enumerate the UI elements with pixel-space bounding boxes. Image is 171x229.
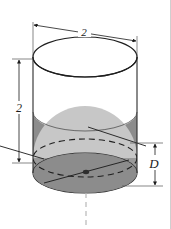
center-dot xyxy=(83,170,89,174)
geometry-figure: 2 2 D xyxy=(0,0,171,229)
dimension-label-top-diameter: 2 xyxy=(81,26,87,38)
figure-container: 2 2 D xyxy=(0,0,171,229)
dimension-label-left-height: 2 xyxy=(16,101,22,115)
cylinder xyxy=(33,37,137,210)
dimension-label-right-depth: D xyxy=(148,156,159,171)
